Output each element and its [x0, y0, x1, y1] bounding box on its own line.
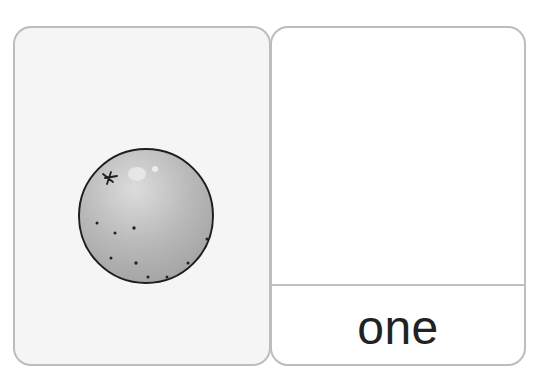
- word-label: one: [272, 288, 524, 366]
- word-card: one: [270, 26, 526, 366]
- card-divider: [272, 284, 524, 286]
- picture-card: [13, 26, 271, 366]
- orange-fruit-icon: [73, 142, 219, 292]
